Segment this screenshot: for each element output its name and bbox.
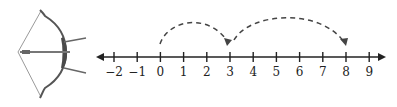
number-line-figure: −2−10123456789 [0, 0, 397, 107]
tick-label: 0 [157, 65, 165, 79]
tick-label: −1 [128, 65, 146, 79]
tick-label: 4 [249, 65, 257, 79]
right-arrow-icon [378, 53, 386, 61]
arrowhead-at-8 [340, 38, 348, 46]
tick-label: 2 [203, 65, 211, 79]
tick-labels: −2−10123456789 [105, 65, 373, 79]
tick-label: 3 [226, 65, 234, 79]
jump-arcs [160, 18, 348, 46]
tick-label: 5 [273, 65, 281, 79]
arrow-nock [22, 50, 30, 54]
tick-label: 9 [365, 65, 373, 79]
bow-line-upper [64, 38, 86, 42]
jump-arc-0-to-3 [160, 23, 228, 44]
number-line: −2−10123456789 [96, 52, 386, 79]
tick-label: −2 [105, 65, 123, 79]
tick-label: 1 [180, 65, 188, 79]
tick-label: 8 [342, 65, 350, 79]
bow-line-lower [64, 68, 86, 73]
arrowhead-at-3 [224, 38, 232, 46]
left-arrow-icon [96, 53, 104, 61]
bow-and-arrow-icon [18, 10, 86, 98]
tick-label: 7 [319, 65, 327, 79]
tick-label: 6 [296, 65, 304, 79]
jump-arc-3-to-8 [234, 18, 344, 42]
bow-limb [40, 10, 66, 98]
